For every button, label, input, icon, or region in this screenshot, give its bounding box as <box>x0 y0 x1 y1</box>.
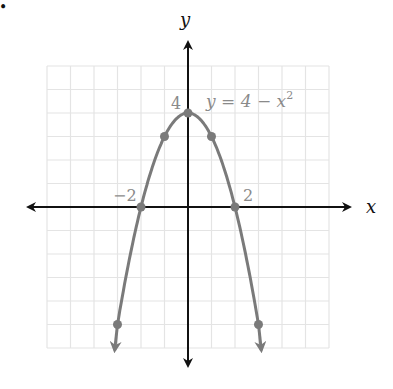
data-point <box>113 320 122 329</box>
tick-label-x-neg2: −2 <box>113 186 137 205</box>
data-point <box>254 320 263 329</box>
tick-label-y4: 4 <box>171 94 181 113</box>
data-point <box>184 109 193 118</box>
equation-exponent: 2 <box>286 89 293 102</box>
bullet-mark: • <box>0 0 7 15</box>
data-point <box>137 203 146 212</box>
equation-label: y = 4 − x2 <box>205 89 293 111</box>
parabola-graph: x y 4 −2 2 y = 4 − x2 • <box>0 0 393 389</box>
data-point <box>207 132 216 141</box>
data-point <box>160 132 169 141</box>
y-axis-label: y <box>179 9 191 30</box>
data-point <box>231 203 240 212</box>
tick-label-x2: 2 <box>243 186 253 205</box>
x-axis-label: x <box>366 196 376 217</box>
